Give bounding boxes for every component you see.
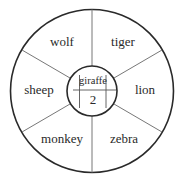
center-label: giraffe [79,75,107,86]
center-value: 2 [90,92,97,107]
divider-lower-left [22,104,70,132]
divider-upper-left [22,50,70,78]
sector-label-tiger: tiger [111,34,135,49]
sector-label-zebra: zebra [110,131,138,146]
inner-circle [67,66,117,116]
sector-label-sheep: sheep [24,82,54,97]
divider-upper-right [114,50,162,78]
wheel-diagram: wolf tiger lion zebra monkey sheep giraf… [0,0,178,184]
sector-label-monkey: monkey [41,131,83,146]
sector-label-lion: lion [135,82,156,97]
divider-lower-right [114,104,162,132]
sector-label-wolf: wolf [50,34,75,49]
